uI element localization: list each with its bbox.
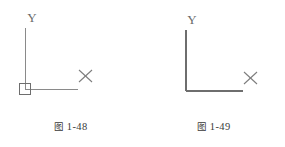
- figure-1-48-drawing: Y: [0, 0, 142, 120]
- figure-1-49: Y 图1-49: [143, 0, 285, 147]
- figure-1-49-drawing: Y: [143, 0, 285, 120]
- x-axis-label-icon: [79, 70, 92, 82]
- x-axis-label-icon: [244, 72, 257, 84]
- figure-1-48: Y 图1-48: [0, 0, 142, 147]
- caption-cjk-label: 图: [197, 121, 207, 132]
- figure-1-48-caption: 图1-48: [0, 120, 142, 133]
- caption-number: 1-48: [67, 121, 88, 132]
- y-axis-label: Y: [187, 12, 197, 27]
- caption-number: 1-49: [210, 121, 231, 132]
- figure-1-49-caption: 图1-49: [143, 120, 285, 133]
- y-axis-label: Y: [27, 10, 37, 25]
- caption-cjk-label: 图: [54, 121, 64, 132]
- figures-canvas: Y 图1-48 Y 图1-49: [0, 0, 285, 147]
